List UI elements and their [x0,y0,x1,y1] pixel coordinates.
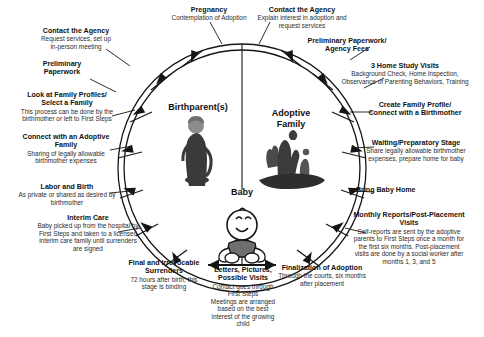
step-right-home-study-visits: 3 Home Study Visits Background Check, Ho… [326,62,484,85]
step-detail: Background Check, Home Inspection,Observ… [326,70,484,85]
step-detail: Contact goes throughFirst StepsMeetings … [190,283,296,328]
step-title: Contact the Agency [238,6,366,14]
step-detail: Request services, set upin-person meetin… [16,35,136,50]
step-left-contact-agency: Contact the Agency Request services, set… [16,27,136,50]
step-title: PreliminaryPaperwork [16,60,108,77]
step-detail: Explain interest in adoption andrequest … [238,14,366,29]
baby-figure [219,208,265,263]
step-detail: This process can be done by thebirthmoth… [2,108,132,123]
step-title: Create Family Profile/Connect with a Bir… [350,101,480,118]
step-right-bring-baby-home: Bring Baby Home [356,186,480,194]
step-right-waiting-preparatory-stage: Waiting/Preparatory Stage Share legally … [348,139,484,162]
baby-center-text: Baby [231,187,253,197]
step-title: Labor and Birth [2,183,132,191]
birthparent-figure [183,116,211,186]
step-title: Preliminary Paperwork/Agency Fees [286,37,408,54]
step-title: Monthly Reports/Post-PlacementVisits [334,211,484,228]
step-title: 3 Home Study Visits [326,62,484,70]
step-detail: Self-reports are sent by the adoptivepar… [334,228,484,266]
step-title: Look at Family Profiles/Select a Family [2,91,132,108]
step-right-create-family-profile: Create Family Profile/Connect with a Bir… [350,101,480,118]
step-left-family-profiles: Look at Family Profiles/Select a Family … [2,91,132,123]
step-title: Bring Baby Home [356,186,480,194]
adoptive-family-center-text-2: Family [248,119,334,130]
step-detail: Sharing of legally allowablebirthmother … [2,150,130,165]
baby-center-label: Baby [212,187,272,197]
step-left-interim-care: Interim Care Baby picked up from the hos… [26,214,150,252]
step-right-contact-agency: Contact the Agency Explain interest in a… [238,6,366,29]
diagram-canvas: Birthparent(s) Adoptive Family Baby Preg… [0,0,484,337]
adoptive-family-center-text-1: Adoptive [248,108,334,119]
step-left-labor-and-birth: Labor and Birth As private or shared as … [2,183,132,206]
step-right-preliminary-paperwork-fees: Preliminary Paperwork/Agency Fees [286,37,408,54]
step-left-preliminary-paperwork: PreliminaryPaperwork [16,60,108,77]
step-bottom-letters-pictures-visits: Letters, Pictures,Possible Visits Contac… [190,266,296,328]
adoptive-family-figure [259,130,325,189]
step-title: Waiting/Preparatory Stage [348,139,484,147]
step-title: Connect with an AdoptiveFamily [2,133,130,150]
step-detail: Share legally allowable birthmotherexpen… [348,147,484,162]
step-title: Interim Care [26,214,150,222]
step-left-connect-adoptive-family: Connect with an AdoptiveFamily Sharing o… [2,133,130,165]
step-title: Contact the Agency [16,27,136,35]
adoptive-family-center-label: Adoptive Family [248,108,334,130]
birthparent-center-label: Birthparent(s) [148,102,248,112]
birthparent-center-text: Birthparent(s) [168,102,228,112]
step-detail: Baby picked up from the hospital byFirst… [26,222,150,252]
step-title: Letters, Pictures,Possible Visits [190,266,296,283]
step-right-monthly-reports: Monthly Reports/Post-PlacementVisits Sel… [334,211,484,265]
step-detail: As private or shared as desired bybirthm… [2,191,132,206]
